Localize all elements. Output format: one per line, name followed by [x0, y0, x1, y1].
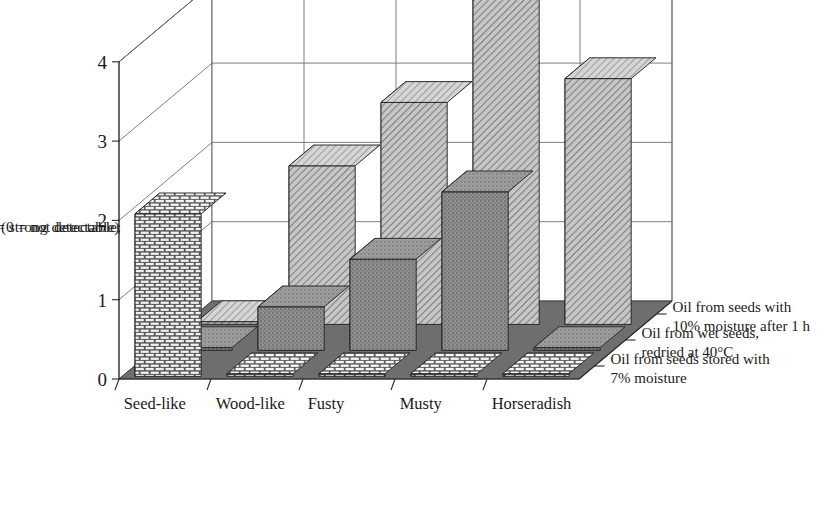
bar-face-front [503, 374, 569, 377]
x-tick-0 [115, 379, 119, 390]
chart-3d-bar: 01234Intensity (0 = not detectable;5 = s… [0, 0, 829, 524]
bar-face-front [197, 322, 263, 325]
plot-scene [119, 0, 672, 379]
chart-canvas: 01234Intensity (0 = not detectable;5 = s… [0, 0, 829, 524]
bar-face-front [565, 79, 631, 325]
legend-label-3-line-2: 7% moisture [611, 370, 688, 386]
y-tick-label-1: 1 [98, 290, 108, 311]
x-axis-label-musty: Musty [400, 394, 443, 413]
legend-label-3-line-1: Oil from seeds stored with [611, 351, 771, 367]
y-tick-label-4: 4 [98, 52, 108, 73]
x-tick-1 [207, 379, 211, 390]
bar-face-front [227, 374, 293, 377]
y-tick-label-3: 3 [98, 131, 108, 152]
bar-face-front [442, 192, 508, 351]
bar-face-front [350, 259, 416, 350]
x-axis-label-seed-like: Seed-like [124, 394, 186, 413]
legend-label-1-line-1: Oil from seeds with [673, 299, 792, 315]
y-axis-title-line-2: 5 = strong detectable) [0, 218, 119, 236]
legend-label-2-line-1: Oil from wet seeds, [642, 325, 759, 341]
x-tick-4 [483, 379, 487, 390]
bar-face-front [411, 374, 477, 377]
x-axis-label-horseradish: Horseradish [492, 394, 572, 413]
y-tick-label-0: 0 [98, 369, 108, 390]
bar-face-front [319, 374, 385, 377]
x-axis-label-fusty: Fusty [308, 394, 345, 413]
bar-face-front [135, 214, 201, 377]
x-tick-3 [391, 379, 395, 390]
x-tick-2 [299, 379, 303, 390]
bar-face-front [534, 348, 600, 351]
bar-face-front [258, 307, 324, 351]
x-axis-label-wood-like: Wood-like [216, 394, 285, 413]
